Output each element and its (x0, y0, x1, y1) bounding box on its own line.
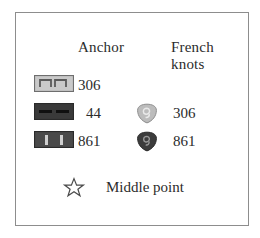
backstitch-dark-swatch (34, 103, 74, 120)
star-outline-icon (62, 176, 86, 200)
middle-point-label: Middle point (106, 173, 184, 201)
french-knot-color-number: 306 (173, 99, 233, 127)
anchor-color-number: 306 (78, 71, 124, 99)
anchor-color-number: 861 (78, 127, 124, 155)
legend-row: 861 861 (16, 127, 250, 155)
column-header-french-knots: French knots (171, 39, 241, 73)
middle-point-row: Middle point (16, 173, 250, 203)
legend-panel: Anchor French knots 306 (15, 12, 249, 226)
legend-row: 306 (16, 71, 250, 99)
french-knot-color-number: 861 (173, 127, 233, 155)
legend-row: 44 306 (16, 99, 250, 127)
column-header-anchor: Anchor (78, 39, 140, 56)
anchor-color-number: 44 (86, 99, 132, 127)
french-knot-light-icon (136, 103, 158, 124)
backstitch-medium-swatch (34, 131, 74, 148)
french-knot-dark-icon (136, 131, 158, 152)
backstitch-light-swatch (34, 75, 74, 92)
column-header-french-knots-line1: French (171, 39, 241, 56)
legend-table: Anchor French knots 306 (16, 13, 250, 227)
